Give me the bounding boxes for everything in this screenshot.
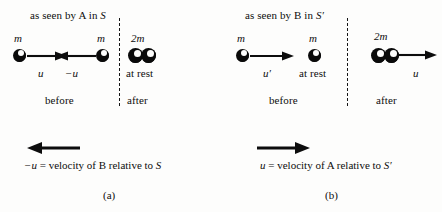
panel-b-after-label: after xyxy=(376,95,397,106)
panel-a-combined-ball-right xyxy=(141,48,156,63)
panel-a-right-ball-mass: m xyxy=(97,33,105,44)
panel-b-divider xyxy=(347,18,348,106)
panel-b-frame-velocity-caption: u = velocity of A relative to S′ xyxy=(260,159,392,171)
panel-b-left-ball xyxy=(236,49,249,62)
panel-a-frame-velocity-caption: −u = velocity of B relative to S xyxy=(24,159,161,171)
panel-a-frame-velocity-arrow xyxy=(27,142,80,154)
panel-a-combined-pair xyxy=(128,48,156,63)
panel-b-combined-ball-right xyxy=(384,48,399,63)
panel-b-left-ball-mass: m xyxy=(237,33,245,44)
panel-b-header-prefix: as seen by B in xyxy=(245,9,316,21)
panel-a-caption-frame: S xyxy=(156,159,162,171)
panel-b-combined-pair xyxy=(371,48,399,63)
panel-a-subfigure-label: (a) xyxy=(103,189,115,201)
physics-collision-figure: as seen by A in S m u m −u 2m xyxy=(0,0,442,212)
panel-b-header-frame: S′ xyxy=(316,9,324,21)
panel-a-header-prefix: as seen by A in xyxy=(30,9,100,21)
panel-a-caption-velocity: −u xyxy=(24,159,37,171)
panel-b-left-ball-velocity: u′ xyxy=(263,68,271,79)
panel-a-after-label: after xyxy=(127,95,148,106)
panel-b-combined-mass: 2m xyxy=(374,31,388,42)
panel-a: as seen by A in S m u m −u 2m xyxy=(0,0,221,212)
panel-a-left-ball-mass: m xyxy=(14,33,22,44)
panel-b: as seen by B in S′ m u′ m at rest 2m xyxy=(221,0,442,212)
panel-b-combined-velocity: u xyxy=(413,68,419,79)
panel-b-frame-velocity-arrow xyxy=(257,142,310,154)
panel-a-left-ball-velocity: u xyxy=(38,68,44,79)
panel-a-header-frame: S xyxy=(100,9,106,21)
panel-b-right-ball-state: at rest xyxy=(299,68,326,79)
panel-b-before-label: before xyxy=(269,95,298,106)
panel-a-combined-mass: 2m xyxy=(131,33,145,44)
panel-a-caption-text: = velocity of B relative to xyxy=(37,159,156,171)
panel-b-caption-frame: S′ xyxy=(384,159,392,171)
panel-a-header: as seen by A in S xyxy=(30,10,106,21)
panel-b-right-ball-mass: m xyxy=(309,33,317,44)
panel-a-before-label: before xyxy=(45,95,74,106)
panel-a-combined-state: at rest xyxy=(126,68,153,79)
panel-b-subfigure-label: (b) xyxy=(325,189,338,201)
panel-a-divider xyxy=(119,18,120,106)
panel-a-right-ball-arrow xyxy=(56,51,96,61)
panel-b-caption-text: = velocity of A relative to xyxy=(266,159,384,171)
panel-a-right-ball-velocity: −u xyxy=(65,68,78,79)
panel-a-left-ball xyxy=(13,49,26,62)
panel-b-combined-arrow xyxy=(399,50,437,60)
panel-a-right-ball xyxy=(96,49,109,62)
panel-b-header: as seen by B in S′ xyxy=(245,10,324,21)
panel-b-left-ball-arrow xyxy=(250,51,294,61)
panel-b-right-ball xyxy=(308,49,321,62)
